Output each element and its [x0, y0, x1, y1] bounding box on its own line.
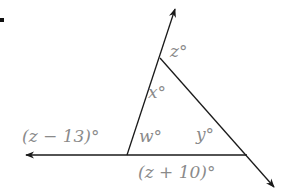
triangle-diagram: z° x° (z − 13)° w° y° (z + 10)° — [0, 0, 284, 192]
label-left-exterior: (z − 13)° — [22, 126, 99, 146]
problem-bullet — [0, 18, 4, 22]
label-x: x° — [148, 82, 166, 102]
label-bottom-exterior: (z + 10)° — [138, 162, 215, 182]
label-w: w° — [139, 126, 162, 146]
label-z: z° — [169, 41, 187, 61]
label-y: y° — [195, 124, 214, 144]
